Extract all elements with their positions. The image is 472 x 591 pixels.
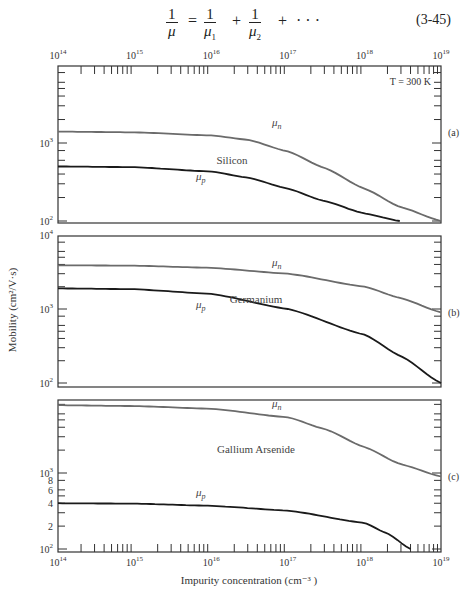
y-tick-label-exponent: 2: [50, 214, 54, 222]
top-axis-tick-label-base: 10: [203, 50, 213, 61]
top-axis-tick-label-exponent: 18: [366, 48, 374, 56]
bottom-axis-tick-label: 1016: [203, 555, 221, 568]
panel-b: 104103102μnμpGermanium(b): [40, 228, 460, 389]
material-label: Gallium Arsenide: [217, 443, 295, 455]
y-axis-title: Mobility (cm²/V·s): [6, 268, 19, 353]
curve-mu-n: [58, 405, 441, 476]
y-tick-label-base: 10: [40, 544, 50, 555]
y-tick-label: 102: [40, 542, 54, 555]
y-tick-label-base: 10: [40, 378, 50, 389]
bottom-axis-tick-label-exponent: 17: [289, 555, 297, 563]
plot-frame: [58, 236, 441, 387]
top-axis-tick-label-base: 10: [356, 50, 366, 61]
bottom-axis-tick-label-base: 10: [356, 557, 366, 568]
curve-label-mu-n: μn: [271, 116, 282, 131]
mu-subscript: n: [278, 122, 282, 131]
material-label: Silicon: [216, 154, 248, 166]
top-axis-tick-label: 1015: [126, 48, 144, 61]
top-axis-tick-label: 1018: [356, 48, 374, 61]
bottom-axis-tick-label: 1019: [433, 555, 451, 568]
curve-label-mu-p: μp: [195, 298, 206, 313]
y-tick-label-exponent: 3: [50, 466, 54, 474]
bottom-axis-tick-label-exponent: 19: [443, 555, 451, 563]
curve-label-mu-n: μn: [271, 397, 282, 412]
mu-subscript: p: [201, 492, 206, 501]
y-tick-label-exponent: 2: [50, 376, 54, 384]
y-tick-label: 104: [40, 228, 54, 241]
bottom-axis-tick-label-exponent: 18: [366, 555, 374, 563]
top-axis-tick-label-exponent: 16: [213, 48, 221, 56]
bottom-axis-tick-label: 1017: [279, 555, 297, 568]
panel-c: 1038642102μnμpGallium Arsenide(c): [40, 397, 460, 555]
y-tick-label-base: 6: [48, 485, 53, 496]
y-tick-label: 2: [48, 521, 53, 532]
top-axis-tick-label: 1019: [433, 48, 451, 61]
bottom-axis-tick-label-exponent: 16: [213, 555, 221, 563]
top-axis-tick-label-base: 10: [50, 50, 60, 61]
panel-label: (b): [448, 307, 460, 319]
y-tick-label: 103: [40, 302, 54, 315]
panel-label: (a): [448, 127, 459, 139]
bottom-axis-tick-label-base: 10: [279, 557, 289, 568]
y-tick-label-base: 10: [40, 216, 50, 227]
top-axis-tick-label-exponent: 15: [136, 48, 144, 56]
bottom-axis-tick-label-exponent: 15: [136, 555, 144, 563]
mu-subscript: n: [278, 262, 282, 271]
y-tick-label-base: 10: [40, 304, 50, 315]
bottom-axis-tick-label: 1015: [126, 555, 144, 568]
bottom-axis-tick-label-base: 10: [203, 557, 213, 568]
y-tick-label-exponent: 3: [50, 136, 54, 144]
bottom-axis-tick-label-base: 10: [126, 557, 136, 568]
mu-subscript: n: [278, 403, 282, 412]
top-axis-tick-label-exponent: 19: [443, 48, 451, 56]
top-axis-tick-label-exponent: 17: [289, 48, 297, 56]
panel-label: (c): [448, 471, 459, 483]
y-tick-label-base: 10: [40, 230, 50, 241]
bottom-axis-tick-label-base: 10: [50, 557, 60, 568]
curve-mu-n: [58, 132, 441, 221]
material-label: Germanium: [230, 293, 283, 305]
mu-subscript: p: [201, 176, 206, 185]
curve-label-mu-p: μp: [195, 486, 206, 501]
y-tick-label: 103: [40, 136, 54, 149]
y-tick-label: 102: [40, 376, 54, 389]
top-axis-tick-label: 1014: [50, 48, 68, 61]
y-tick-label-base: 4: [48, 498, 53, 509]
temperature-annotation: T = 300 K: [390, 76, 432, 87]
plot-frame: [58, 400, 441, 552]
curve-mu-p: [58, 503, 411, 549]
bottom-axis-tick-label: 1014: [50, 555, 68, 568]
y-tick-label-exponent: 2: [50, 542, 54, 550]
bottom-axis-tick-label-base: 10: [433, 557, 443, 568]
mobility-chart: 101410151016101710181019103102μnμpSilico…: [0, 0, 472, 591]
y-tick-label-base: 2: [48, 521, 53, 532]
top-axis-tick-label-base: 10: [433, 50, 443, 61]
y-tick-label-exponent: 4: [50, 228, 54, 236]
top-axis-tick-label-base: 10: [279, 50, 289, 61]
top-axis-tick-label: 1017: [279, 48, 297, 61]
mu-subscript: p: [201, 304, 206, 313]
y-tick-label: 4: [48, 498, 53, 509]
bottom-axis-tick-label-exponent: 14: [60, 555, 68, 563]
y-tick-label: 6: [48, 485, 53, 496]
top-axis-tick-label-exponent: 14: [60, 48, 68, 56]
curve-label-mu-p: μp: [195, 170, 206, 185]
bottom-axis-tick-label: 1018: [356, 555, 374, 568]
top-axis-tick-label-base: 10: [126, 50, 136, 61]
x-axis-title: Impurity concentration (cm⁻³ ): [181, 574, 318, 587]
curve-mu-p: [58, 167, 400, 222]
panel-a: 103102μnμpSilicon(a): [40, 66, 460, 227]
top-axis-tick-label: 1016: [203, 48, 221, 61]
y-tick-label: 102: [40, 214, 54, 227]
curve-label-mu-n: μn: [271, 256, 282, 271]
y-tick-label-exponent: 3: [50, 302, 54, 310]
y-tick-label-base: 10: [40, 138, 50, 149]
